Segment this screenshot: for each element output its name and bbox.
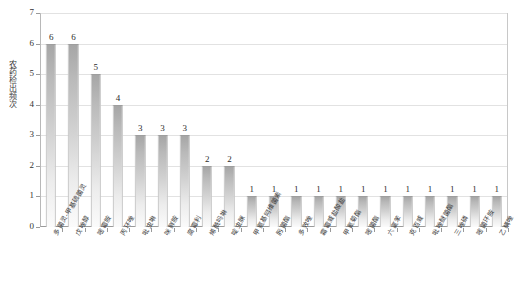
x-axis-label: 啶虫脒 <box>231 215 248 237</box>
x-axis-label: 嘧菌酯 <box>365 215 382 237</box>
x-axis-label: 丙环唑 <box>120 215 137 237</box>
x-axis-label: 三唑磷 <box>454 215 471 237</box>
x-axis-label: 六氯苯 <box>387 215 404 237</box>
x-axis-label: 嘧菌环胺 <box>476 209 496 237</box>
x-axis-label: 肟菌酯 <box>276 215 293 237</box>
x-axis-label: 戊唑醇 <box>75 215 92 237</box>
x-axis-label: 多效唑 <box>298 215 315 237</box>
x-axis-labels: 多菌灵-甲基硫菌灵戊唑醇嘧霉胺丙环唑吡虫啉咪鲜胺腐霉利烯酰吗啉啶虫脒甲氨基阿维菌… <box>0 0 524 286</box>
x-axis-label: 烯酰吗啉 <box>209 209 229 237</box>
x-axis-label: 甲氰菊酯 <box>343 209 363 237</box>
x-axis-label: 克百威 <box>409 215 426 237</box>
x-axis-label: 腐霉利 <box>187 215 204 237</box>
x-axis-label: 乙螨唑 <box>499 215 516 237</box>
x-axis-label: 咪鲜胺 <box>164 215 181 237</box>
x-axis-label: 嘧霉胺 <box>97 215 114 237</box>
bar-chart: 农药检出频次 01234567 665433322111111111111 多菌… <box>0 0 524 286</box>
x-axis-label: 吡虫啉 <box>142 215 159 237</box>
